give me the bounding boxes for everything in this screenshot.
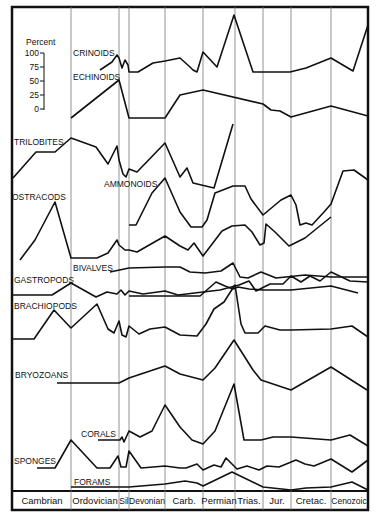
period-cenozoic: Cenozoic bbox=[331, 496, 367, 506]
series-sponges bbox=[37, 440, 368, 472]
period-jurassic: Jur. bbox=[269, 495, 284, 506]
series-corals bbox=[98, 384, 368, 446]
label-ammonoids: AMMONOIDS bbox=[104, 179, 158, 189]
label-trilobites: TRILOBITES bbox=[14, 137, 64, 147]
series-extra-lower bbox=[129, 282, 358, 296]
tick-25: 25 bbox=[30, 90, 40, 100]
label-ostracods: OSTRACODS bbox=[12, 192, 66, 202]
tick-0: 0 bbox=[34, 104, 39, 114]
tick-100: 100 bbox=[25, 48, 39, 58]
period-cretaceous: Cretac. bbox=[296, 495, 327, 506]
tick-50: 50 bbox=[30, 76, 40, 86]
series-crinoids bbox=[100, 15, 368, 72]
label-brachiopods: BRACHIOPODS bbox=[14, 301, 77, 311]
period-carboniferous: Carb. bbox=[172, 495, 195, 506]
label-gastropods: GASTROPODS bbox=[14, 275, 74, 285]
label-sponges: SPONGES bbox=[14, 456, 56, 466]
label-corals: CORALS bbox=[81, 429, 116, 439]
period-permian: Permian bbox=[201, 495, 236, 506]
label-echinoids: ECHINOIDS bbox=[73, 72, 121, 82]
series-echinoids bbox=[71, 80, 368, 118]
period-devonian: Devonian bbox=[129, 496, 165, 506]
period-ordovician: Ordovician bbox=[72, 495, 117, 506]
percent-scale-label: Percent bbox=[26, 37, 56, 47]
series-bryozoans bbox=[57, 340, 367, 390]
label-crinoids: CRINOIDS bbox=[73, 48, 115, 58]
fossil-diversity-chart: Cambrian Ordovician Sil Devonian Carb. P… bbox=[0, 0, 378, 517]
period-labels: Cambrian Ordovician Sil Devonian Carb. P… bbox=[21, 495, 367, 506]
series-bivalves bbox=[110, 263, 368, 278]
series-forams bbox=[71, 472, 368, 490]
period-silurian: Sil bbox=[119, 496, 129, 506]
label-bivalves: BIVALVES bbox=[73, 263, 113, 273]
series-ostracods bbox=[20, 202, 331, 260]
label-bryozoans: BRYOZOANS bbox=[15, 370, 69, 380]
label-forams: FORAMS bbox=[74, 477, 111, 487]
percent-scale: Percent 100 75 50 25 0 bbox=[25, 37, 56, 114]
period-triassic: Trias. bbox=[237, 495, 260, 506]
tick-75: 75 bbox=[30, 62, 40, 72]
chart-frame bbox=[12, 7, 368, 510]
period-cambrian: Cambrian bbox=[21, 495, 62, 506]
